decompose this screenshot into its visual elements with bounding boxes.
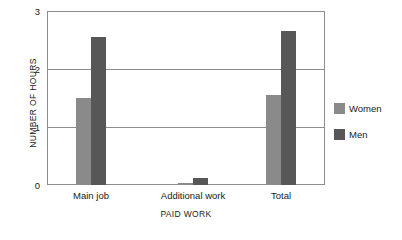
- bar-men-total: [281, 31, 296, 185]
- x-tick-total: Total: [271, 190, 291, 201]
- y-tick-3: 3: [24, 7, 40, 17]
- bar-chart: NUMBER OF HOURS 3 2 1 0 Main job Additio…: [0, 0, 402, 240]
- bar-men-additional-work: [193, 178, 208, 185]
- x-tick-additional-work: Additional work: [161, 190, 225, 201]
- legend-swatch-men-icon: [334, 129, 345, 140]
- legend-item-men: Men: [334, 129, 382, 140]
- y-axis-ticks: 3 2 1 0: [24, 0, 40, 240]
- x-tick-main-job: Main job: [73, 190, 109, 201]
- y-tick-2: 2: [24, 65, 40, 75]
- x-axis-title: PAID WORK: [47, 209, 325, 219]
- y-tick-0: 0: [24, 181, 40, 191]
- legend-swatch-women-icon: [334, 103, 345, 114]
- bar-women-additional-work: [178, 183, 193, 185]
- y-tick-1: 1: [24, 123, 40, 133]
- legend-label-men: Men: [349, 129, 367, 140]
- legend: Women Men: [334, 103, 382, 155]
- bars-layer: [47, 11, 325, 185]
- legend-label-women: Women: [349, 103, 382, 114]
- legend-item-women: Women: [334, 103, 382, 114]
- bar-women-main-job: [76, 98, 91, 185]
- bar-women-total: [266, 95, 281, 185]
- bar-men-main-job: [91, 37, 106, 185]
